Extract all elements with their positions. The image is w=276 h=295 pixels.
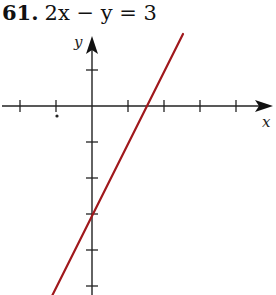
equation-line	[52, 34, 183, 295]
y-axis-label: y	[74, 33, 82, 51]
x-axis-label: x	[262, 113, 270, 131]
graph	[0, 0, 276, 295]
tick-dot	[55, 114, 58, 117]
